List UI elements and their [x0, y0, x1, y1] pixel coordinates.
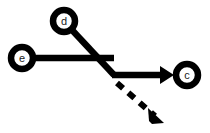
node-e-label: e	[19, 52, 25, 64]
arrowhead-solid-to-c	[160, 66, 174, 84]
edge-d-to-junction	[72, 30, 114, 75]
diagram-canvas: d e c	[0, 0, 210, 133]
node-c[interactable]: c	[176, 64, 198, 86]
diagram-svg: d e c	[0, 0, 210, 133]
edges-group	[33, 30, 174, 124]
node-d[interactable]: d	[53, 10, 75, 32]
node-e[interactable]: e	[11, 47, 33, 69]
node-d-label: d	[61, 15, 67, 27]
arrowhead-dashed-end	[148, 108, 164, 124]
node-c-label: c	[184, 69, 190, 81]
